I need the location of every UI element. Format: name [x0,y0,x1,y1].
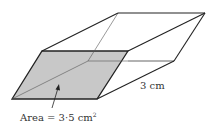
area-label: Area = 3·5 cm2 [19,111,97,123]
prism-diagram: Area = 3·5 cm2 3 cm [0,0,215,126]
length-label: 3 cm [140,80,165,91]
